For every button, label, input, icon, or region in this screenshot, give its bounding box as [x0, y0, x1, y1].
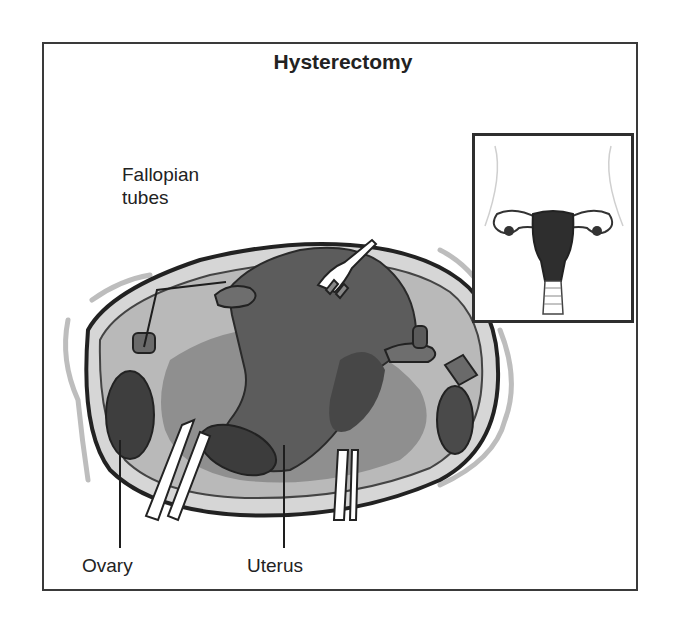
inset-uterus [533, 211, 574, 281]
left-ovary [106, 371, 154, 459]
right-ligament [385, 343, 435, 362]
inset-left-ovary [504, 226, 514, 236]
uterus-inset-illustration [475, 136, 631, 320]
inset-right-tube [569, 211, 612, 234]
inset-right-ovary [592, 226, 602, 236]
inset-uterus-diagram [472, 133, 634, 323]
inset-vagina [543, 281, 563, 314]
right-ovary [437, 386, 473, 454]
inset-left-tube [494, 211, 537, 234]
right-ligament-end [413, 326, 427, 348]
